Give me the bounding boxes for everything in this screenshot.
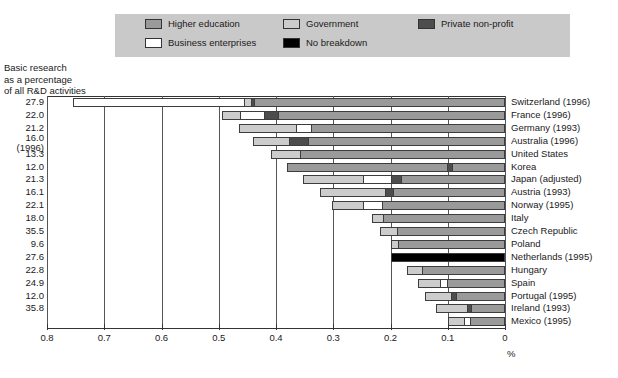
bar-segment-government xyxy=(449,318,466,325)
value-label: 22.1 xyxy=(0,199,44,210)
legend-item-private_non_profit[interactable]: Private non-profit xyxy=(418,18,513,29)
bar-segment-private_non_profit xyxy=(392,176,402,183)
bar-segment-private_non_profit xyxy=(386,189,393,196)
bar-row[interactable] xyxy=(47,186,505,200)
x-axis-unit-label: % xyxy=(507,348,515,359)
bar-segment-higher_education xyxy=(471,318,504,325)
bar-row[interactable] xyxy=(47,238,505,252)
bar-segment-private_non_profit xyxy=(290,138,309,145)
bar-segment-higher_education xyxy=(312,125,504,132)
bar-segment-government xyxy=(426,293,452,300)
bar-segment-business xyxy=(74,99,245,106)
stacked-bar[interactable] xyxy=(222,111,505,120)
bar-segment-higher_education xyxy=(402,176,503,183)
value-label: 12.0 xyxy=(0,161,44,172)
bar-segment-business xyxy=(297,125,312,132)
bar-row[interactable] xyxy=(47,225,505,239)
x-tick-mark xyxy=(505,324,506,330)
stacked-bar[interactable] xyxy=(407,266,505,275)
bar-segment-higher_education xyxy=(255,99,504,106)
bar-segment-government xyxy=(373,215,384,222)
bar-row[interactable] xyxy=(47,302,505,316)
value-label: 21.3 xyxy=(0,173,44,184)
bar-row[interactable] xyxy=(47,109,505,123)
plot-area xyxy=(47,96,505,328)
bar-row[interactable] xyxy=(47,122,505,136)
legend-item-business[interactable]: Business enterprises xyxy=(145,37,256,48)
stacked-bar[interactable] xyxy=(271,150,505,159)
stacked-bar[interactable] xyxy=(391,240,506,249)
bar-row[interactable] xyxy=(47,290,505,304)
stacked-bar[interactable] xyxy=(436,304,505,313)
bar-segment-higher_education xyxy=(384,215,504,222)
value-label: 22.8 xyxy=(0,264,44,275)
legend-swatch-higher_education-icon xyxy=(145,19,162,29)
legend-row-2: Business enterprisesNo breakdown xyxy=(115,37,570,54)
stacked-bar[interactable] xyxy=(239,124,505,133)
stacked-bar[interactable] xyxy=(425,292,505,301)
stacked-bar[interactable] xyxy=(253,137,505,146)
legend-swatch-no_breakdown-icon xyxy=(283,38,300,48)
bar-segment-higher_education xyxy=(423,267,504,274)
bar-row[interactable] xyxy=(47,199,505,213)
country-label: Germany (1993) xyxy=(511,122,580,133)
stacked-bar[interactable] xyxy=(73,98,505,107)
value-label: 9.6 xyxy=(0,238,44,249)
bar-row[interactable] xyxy=(47,173,505,187)
stacked-bar[interactable] xyxy=(320,188,505,197)
bar-segment-no_breakdown xyxy=(392,254,505,261)
stacked-bar[interactable] xyxy=(332,201,505,210)
bar-segment-business xyxy=(364,176,392,183)
value-label: 27.6 xyxy=(0,251,44,262)
stacked-bar[interactable] xyxy=(372,214,505,223)
country-label: Portugal (1995) xyxy=(511,290,576,301)
x-tick-mark xyxy=(219,324,220,330)
legend-item-higher_education[interactable]: Higher education xyxy=(145,18,240,29)
country-label: Japan (adjusted) xyxy=(511,173,582,184)
country-label: Ireland (1993) xyxy=(511,302,570,313)
legend-swatch-business-icon xyxy=(145,38,162,48)
stacked-bar[interactable] xyxy=(418,279,505,288)
x-tick-mark xyxy=(448,324,449,330)
bar-row[interactable] xyxy=(47,251,505,265)
x-tick-label: 0.8 xyxy=(40,332,53,343)
bar-row[interactable] xyxy=(47,135,505,149)
legend-item-no_breakdown[interactable]: No breakdown xyxy=(283,37,367,48)
bar-segment-higher_education xyxy=(472,305,504,312)
stacked-bar[interactable] xyxy=(380,227,505,236)
stacked-bar[interactable] xyxy=(391,253,506,262)
stacked-bar[interactable] xyxy=(287,163,505,172)
legend-label-higher_education: Higher education xyxy=(168,18,240,29)
bar-segment-government xyxy=(321,189,386,196)
x-tick-mark xyxy=(104,324,105,330)
bar-row[interactable] xyxy=(47,264,505,278)
bar-row[interactable] xyxy=(47,96,505,110)
bar-row[interactable] xyxy=(47,212,505,226)
bar-segment-higher_education xyxy=(309,138,504,145)
value-label: 18.0 xyxy=(0,212,44,223)
x-axis-ticks: 0.80.70.60.50.40.30.20.10 xyxy=(0,330,618,350)
value-label: 35.5 xyxy=(0,225,44,236)
value-label: 12.0 xyxy=(0,290,44,301)
x-tick-label: 0.4 xyxy=(269,332,282,343)
bar-segment-higher_education xyxy=(301,151,504,158)
bar-segment-government xyxy=(304,176,364,183)
legend-swatch-government-icon xyxy=(283,19,300,29)
bar-segment-government xyxy=(381,228,398,235)
y-axis-title: Basic research as a percentage of all R&… xyxy=(4,62,86,97)
country-label: Italy xyxy=(511,212,528,223)
stacked-bar[interactable] xyxy=(448,317,505,326)
bar-row[interactable] xyxy=(47,277,505,291)
stacked-bar[interactable] xyxy=(303,175,505,184)
bar-row[interactable] xyxy=(47,161,505,175)
legend-label-government: Government xyxy=(306,18,358,29)
chart-legend: Higher educationGovernmentPrivate non-pr… xyxy=(115,14,570,57)
x-tick-mark xyxy=(47,324,48,330)
legend-item-government[interactable]: Government xyxy=(283,18,358,29)
bar-row[interactable] xyxy=(47,148,505,162)
country-label: Mexico (1995) xyxy=(511,315,571,326)
country-label: Switzerland (1996) xyxy=(511,96,590,107)
bar-segment-government xyxy=(223,112,241,119)
x-tick-mark xyxy=(333,324,334,330)
value-label: 24.9 xyxy=(0,277,44,288)
